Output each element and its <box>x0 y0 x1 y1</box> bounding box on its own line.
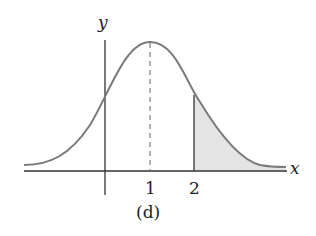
figure: y x 1 2 (d) <box>0 0 316 236</box>
figure-caption: (d) <box>136 204 160 221</box>
tick-label-1: 1 <box>145 180 156 197</box>
normal-curve-plot <box>0 0 316 236</box>
shaded-tail-region <box>194 95 286 171</box>
y-axis-label: y <box>98 14 108 31</box>
tick-label-2: 2 <box>189 180 200 197</box>
bell-curve <box>24 42 286 167</box>
x-axis-label: x <box>290 160 300 177</box>
